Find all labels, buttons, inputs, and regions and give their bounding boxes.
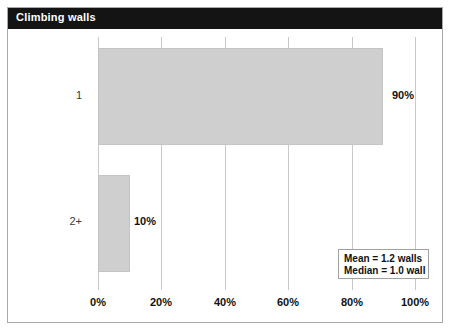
value-label-2plus: 10% [134,215,156,227]
stats-mean: Mean = 1.2 walls [344,253,428,265]
stats-median: Median = 1.0 wall [344,265,428,277]
xtick-label-40: 40% [214,296,236,308]
category-label-1: 1 [60,89,82,101]
value-label-1: 90% [392,89,414,101]
plot-area: 1 90% 2+ 10% 0% 20% 40% 60% 80% 100% Mea… [0,0,451,332]
xtick-label-100: 100% [401,296,429,308]
bar-category-1 [98,48,383,145]
category-label-2plus: 2+ [58,215,82,227]
chart-screenshot: Climbing walls 1 90% 2+ 10% 0% 20% 40% 6… [0,0,451,332]
xtick-label-80: 80% [341,296,363,308]
stats-box: Mean = 1.2 walls Median = 1.0 wall [338,249,429,279]
xtick-label-0: 0% [90,296,106,308]
bar-category-2plus [98,175,130,272]
xtick-label-20: 20% [150,296,172,308]
xtick-label-60: 60% [277,296,299,308]
